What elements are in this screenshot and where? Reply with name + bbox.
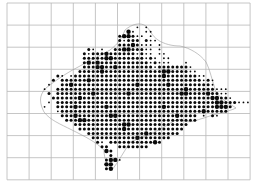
- record-dot: [127, 83, 130, 86]
- record-dot: [83, 88, 86, 91]
- record-dot: [180, 79, 183, 82]
- record-dot: [92, 57, 95, 60]
- record-dot: [136, 132, 139, 135]
- record-dot: [123, 97, 126, 100]
- record-dot: [92, 123, 95, 126]
- record-dot: [162, 110, 165, 113]
- record-dot: [96, 70, 99, 73]
- record-dot: [114, 52, 117, 55]
- record-dot: [123, 110, 126, 113]
- record-dot: [114, 92, 117, 95]
- record-dot: [61, 83, 64, 86]
- record-dot: [233, 101, 236, 104]
- record-dot: [136, 43, 139, 46]
- record-dot: [216, 115, 218, 117]
- record-dot: [119, 159, 121, 161]
- record-dot: [123, 92, 126, 95]
- record-dot: [167, 119, 170, 122]
- record-dot: [162, 83, 165, 86]
- record-dot: [83, 66, 86, 69]
- record-dot: [92, 127, 95, 130]
- record-dot: [145, 83, 148, 86]
- record-dot: [180, 127, 183, 130]
- record-dot: [171, 70, 174, 73]
- record-dot: [113, 158, 117, 162]
- record-dot: [131, 39, 134, 42]
- record-dot: [150, 40, 152, 42]
- record-dot: [96, 114, 99, 117]
- record-dot: [159, 62, 161, 64]
- record-dot: [136, 145, 139, 148]
- record-dot: [162, 119, 165, 122]
- record-dot: [145, 57, 147, 59]
- distribution-map: [0, 0, 255, 194]
- record-dot: [158, 119, 161, 122]
- record-dot: [70, 119, 73, 122]
- record-dot: [198, 105, 201, 108]
- record-dot: [145, 119, 148, 122]
- record-dot: [92, 49, 94, 51]
- record-dot: [193, 88, 196, 91]
- record-dot: [87, 60, 91, 64]
- record-dot: [167, 114, 170, 117]
- record-dot: [193, 110, 196, 113]
- record-dot: [216, 88, 218, 90]
- record-dot: [87, 48, 90, 51]
- record-dot: [176, 74, 179, 77]
- record-dot: [167, 123, 170, 126]
- record-dot: [162, 66, 165, 69]
- record-dot: [145, 127, 148, 130]
- record-dot: [61, 105, 64, 108]
- record-dot: [83, 101, 86, 104]
- record-dot: [224, 110, 227, 113]
- record-dot: [136, 53, 138, 55]
- record-dot: [127, 114, 130, 117]
- record-dot: [190, 66, 192, 68]
- record-dot: [162, 79, 165, 82]
- record-dot: [202, 101, 205, 104]
- record-dot: [145, 136, 148, 139]
- record-dot: [207, 97, 210, 100]
- record-dot: [118, 70, 121, 73]
- record-dot: [96, 79, 99, 82]
- record-dot: [131, 141, 134, 144]
- record-dot: [73, 105, 77, 109]
- record-dot: [118, 43, 121, 46]
- record-dot: [224, 97, 227, 100]
- record-dot: [87, 92, 90, 95]
- record-dot: [176, 127, 179, 130]
- record-dot: [136, 70, 139, 73]
- record-dot: [140, 83, 143, 86]
- record-dot: [118, 66, 121, 69]
- record-dot: [123, 66, 126, 69]
- record-dot: [193, 83, 196, 86]
- record-dot: [149, 88, 152, 91]
- record-dot: [101, 74, 104, 77]
- record-dot: [149, 132, 152, 135]
- record-dot: [131, 57, 134, 60]
- record-dot: [189, 101, 192, 104]
- record-dot: [123, 57, 126, 60]
- record-dot: [162, 114, 165, 117]
- record-dot: [78, 96, 82, 100]
- record-dot: [123, 43, 126, 46]
- record-dot: [175, 114, 179, 118]
- record-dot: [145, 74, 148, 77]
- record-dot: [140, 74, 143, 77]
- record-dot: [127, 132, 130, 135]
- record-dot: [193, 79, 196, 82]
- record-dot: [171, 101, 174, 104]
- record-dot: [176, 105, 179, 108]
- record-dot: [122, 47, 126, 51]
- record-dot: [114, 123, 117, 126]
- record-dot: [127, 127, 130, 130]
- record-dot: [101, 105, 104, 108]
- record-dot: [87, 110, 90, 113]
- record-dot: [123, 132, 126, 135]
- record-dot: [176, 119, 179, 122]
- record-dot: [140, 110, 143, 113]
- record-dot: [154, 105, 157, 108]
- record-dot: [83, 97, 86, 100]
- record-dot: [87, 66, 90, 69]
- record-dot: [96, 136, 99, 139]
